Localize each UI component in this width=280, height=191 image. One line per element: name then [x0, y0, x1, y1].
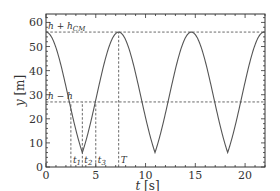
label-t1: t1	[73, 155, 81, 167]
label-T: T	[121, 155, 128, 165]
data-curve	[46, 32, 265, 152]
y-tick-label: 20	[29, 113, 43, 126]
x-tick-label: 15	[188, 169, 202, 182]
plot-frame	[46, 14, 265, 167]
x-tick-label: 20	[238, 169, 252, 182]
y-tick-label: 60	[29, 16, 43, 29]
label-h-minus-h: h − h	[48, 91, 73, 101]
label-t3: t3	[98, 155, 107, 167]
y-tick-label: 50	[29, 41, 43, 54]
y-tick-label: 0	[36, 161, 43, 174]
y-tick-label: 30	[29, 89, 43, 102]
y-tick-label: 40	[29, 65, 43, 78]
label-h-plus-hcm: h + hCM	[48, 21, 86, 33]
plot-area: 051015200102030405060h + hCMh − ht1t2t3T…	[13, 14, 265, 191]
chart: 051015200102030405060h + hCMh − ht1t2t3T…	[0, 0, 280, 191]
x-tick-label: 0	[43, 169, 50, 182]
y-axis-label: y [m]	[13, 75, 27, 107]
x-tick-label: 5	[92, 169, 99, 182]
x-axis-label: t [s]	[135, 179, 159, 191]
y-tick-label: 10	[29, 137, 43, 150]
